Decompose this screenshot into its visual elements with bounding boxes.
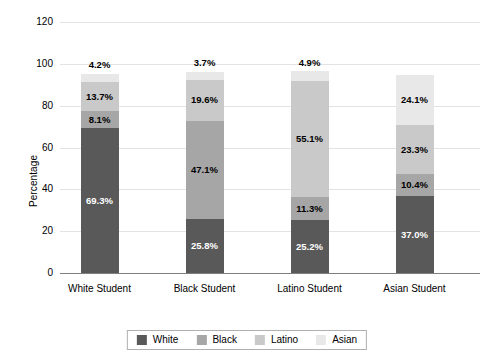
- y-axis-tick-label: 120: [36, 17, 53, 27]
- y-axis-tick-label: 80: [42, 101, 53, 111]
- bar-segment-label: 13.7%: [86, 92, 113, 102]
- bar-stack: 3.7%19.6%47.1%25.8%: [186, 72, 224, 273]
- bar-segment[interactable]: 19.6%: [186, 80, 224, 121]
- bar-segment[interactable]: 23.3%: [396, 125, 434, 174]
- chart-legend: WhiteBlackLatinoAsian: [127, 330, 367, 350]
- bars-layer: 4.2%13.7%8.1%69.3%White Student3.7%19.6%…: [60, 22, 480, 273]
- legend-item[interactable]: White: [137, 335, 179, 345]
- bar-segment-label: 55.1%: [296, 134, 323, 144]
- legend-label: Latino: [271, 335, 298, 345]
- legend-item[interactable]: Black: [196, 335, 236, 345]
- axis-baseline: [60, 273, 480, 274]
- bar-segment-label: 69.3%: [86, 196, 113, 206]
- bar-segment[interactable]: 25.2%: [291, 220, 329, 273]
- bar-group[interactable]: 3.7%19.6%47.1%25.8%Black Student: [186, 72, 224, 273]
- bar-segment[interactable]: 37.0%: [396, 196, 434, 273]
- bar-segment-label: 25.2%: [296, 242, 323, 252]
- bar-segment-label: 24.1%: [401, 95, 428, 105]
- bar-segment[interactable]: 25.8%: [186, 219, 224, 273]
- bar-segment[interactable]: 47.1%: [186, 121, 224, 220]
- bar-segment[interactable]: 4.2%: [81, 74, 119, 83]
- bar-segment-label: 11.3%: [296, 204, 322, 214]
- bar-segment[interactable]: 13.7%: [81, 82, 119, 111]
- legend-item[interactable]: Latino: [255, 335, 298, 345]
- y-axis-tick-label: 0: [47, 268, 53, 278]
- legend-swatch-icon: [196, 335, 206, 345]
- legend-label: White: [153, 335, 179, 345]
- bar-segment-label: 23.3%: [401, 145, 428, 155]
- bar-stack: 4.9%55.1%11.3%25.2%: [291, 71, 329, 273]
- bar-segment[interactable]: 24.1%: [396, 75, 434, 125]
- bar-group[interactable]: 4.9%55.1%11.3%25.2%Latino Student: [291, 71, 329, 273]
- bar-segment-label: 25.8%: [191, 241, 218, 251]
- bar-segment[interactable]: 8.1%: [81, 111, 119, 128]
- legend-label: Asian: [332, 335, 357, 345]
- stacked-bar-chart: Percentage 0204060801001204.2%13.7%8.1%6…: [0, 0, 494, 362]
- y-axis-tick-label: 100: [36, 59, 53, 69]
- bar-segment-label: 4.2%: [89, 60, 111, 70]
- bar-segment-label: 47.1%: [191, 165, 218, 175]
- bar-segment-label: 19.6%: [191, 95, 218, 105]
- x-axis-tick-label: Black Student: [174, 284, 236, 294]
- bar-stack: 24.1%23.3%10.4%37.0%: [396, 75, 434, 273]
- bar-segment-label: 37.0%: [401, 230, 428, 240]
- y-axis-tick-label: 60: [42, 143, 53, 153]
- bar-segment-label: 10.4%: [401, 180, 428, 190]
- bar-segment[interactable]: 69.3%: [81, 128, 119, 273]
- plot-area: 0204060801001204.2%13.7%8.1%69.3%White S…: [60, 22, 480, 273]
- bar-segment-label: 8.1%: [89, 115, 111, 125]
- bar-stack: 4.2%13.7%8.1%69.3%: [81, 74, 119, 273]
- legend-swatch-icon: [255, 335, 265, 345]
- legend-swatch-icon: [137, 335, 147, 345]
- x-axis-tick-label: Asian Student: [383, 284, 445, 294]
- y-axis-tick-label: 40: [42, 184, 53, 194]
- bar-segment[interactable]: 11.3%: [291, 197, 329, 221]
- legend-item[interactable]: Asian: [316, 335, 357, 345]
- y-axis-title: Percentage: [28, 155, 39, 207]
- bar-segment[interactable]: 3.7%: [186, 72, 224, 80]
- bar-segment-label: 4.9%: [299, 58, 321, 68]
- y-axis-tick-label: 20: [42, 226, 53, 236]
- bar-segment[interactable]: 4.9%: [291, 71, 329, 81]
- legend-swatch-icon: [316, 335, 326, 345]
- bar-segment[interactable]: 10.4%: [396, 174, 434, 196]
- bar-group[interactable]: 4.2%13.7%8.1%69.3%White Student: [81, 74, 119, 273]
- x-axis-tick-label: White Student: [68, 284, 131, 294]
- bar-segment[interactable]: 55.1%: [291, 81, 329, 196]
- bar-group[interactable]: 24.1%23.3%10.4%37.0%Asian Student: [396, 75, 434, 273]
- legend-label: Black: [212, 335, 236, 345]
- bar-segment-label: 3.7%: [194, 58, 216, 68]
- x-axis-tick-label: Latino Student: [277, 284, 342, 294]
